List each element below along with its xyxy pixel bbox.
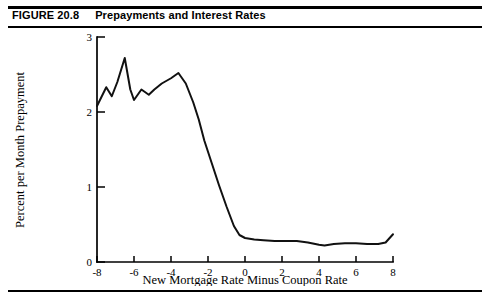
figure-rule-bottom [8,290,482,292]
figure-title: Prepayments and Interest Rates [95,9,266,21]
figure-caption: FIGURE 20.8Prepayments and Interest Rate… [12,9,266,21]
figure-number: FIGURE 20.8 [12,9,79,21]
chart-axes [97,37,393,262]
y-tick-label: 3 [87,31,93,43]
x-tick-label: -6 [129,266,139,278]
x-tick-label: 8 [390,266,396,278]
x-axis-title: New Mortgage Rate Minus Coupon Rate [142,273,348,286]
y-tick-label: 1 [87,181,93,193]
y-axis-ticks: 0123 [87,31,106,268]
figure-page: FIGURE 20.8Prepayments and Interest Rate… [0,0,490,305]
y-tick-label: 2 [87,106,93,118]
page-bleed-text [10,296,480,305]
x-tick-label: 6 [353,266,359,278]
line-chart-svg: 0123 -8-6-4-202468 New Mortgage Rate Min… [0,28,490,286]
data-series-line [97,58,393,246]
chart-plot-area: 0123 -8-6-4-202468 New Mortgage Rate Min… [0,28,490,286]
y-axis-title: Percent per Month Prepayment [13,72,27,228]
x-tick-label: -8 [92,266,102,278]
